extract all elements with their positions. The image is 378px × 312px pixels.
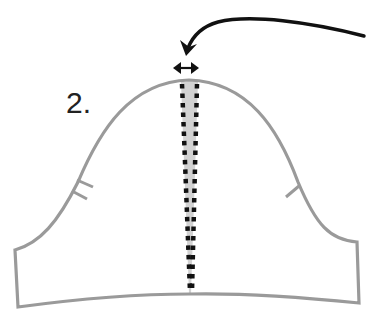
sleeve-pattern-diagram bbox=[0, 0, 378, 312]
front-notch bbox=[286, 186, 299, 197]
step-label: 2. bbox=[66, 88, 91, 118]
width-indicator-icon bbox=[173, 62, 199, 74]
pointer-arrow-icon bbox=[180, 19, 364, 56]
